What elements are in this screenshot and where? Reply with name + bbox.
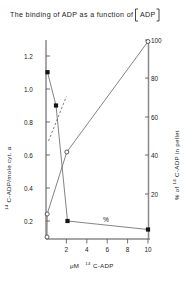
left-tick-label: 0.4 — [24, 185, 33, 192]
chart-figure: The binding of ADP as a function of ADP … — [0, 0, 186, 282]
x-tick-label: 4 — [85, 246, 89, 253]
right-tick-label: 60 — [151, 114, 159, 121]
title-lead-text: The binding of ADP as a function of — [10, 11, 133, 19]
x-tick-label: 2 — [65, 246, 69, 253]
data-point-open-circle — [65, 150, 69, 154]
right-tick-label: 20 — [151, 191, 159, 198]
percent-annotation: % — [103, 216, 109, 223]
data-point-filled-square — [45, 70, 49, 74]
svg-text:The binding of ADP as a functi: The binding of ADP as a function of — [10, 11, 133, 19]
title-bracket-text: ADP — [140, 11, 156, 19]
data-point-open-circle — [45, 235, 49, 239]
x-axis-label-unit: μM — [70, 262, 79, 269]
left-tick-label: 0.8 — [24, 119, 33, 126]
left-tick-label: 1.0 — [24, 86, 33, 93]
right-tick-label: 40 — [151, 152, 159, 159]
left-tick-label: 0.2 — [24, 218, 33, 225]
left-tick-label: 0.6 — [24, 152, 33, 159]
x-axis-label-rest: C-ADP — [93, 262, 114, 269]
x-tick-label: 8 — [126, 246, 130, 253]
data-point-open-circle — [45, 212, 49, 216]
right-tick-label: 80 — [151, 75, 159, 82]
left-tick-label: 1.2 — [24, 53, 33, 60]
data-point-filled-square — [54, 103, 58, 107]
left-axis-label-rest: C-ADP/mole cyt. a — [5, 146, 12, 202]
x-tick-label: 10 — [144, 246, 152, 253]
x-tick-label: 6 — [105, 246, 109, 253]
data-point-open-circle — [146, 40, 150, 44]
right-axis-label-lead: % of — [173, 184, 180, 200]
x-axis-label-superscript: 14 — [85, 261, 91, 266]
right-axis-label-superscript: 14 — [172, 179, 177, 185]
data-point-filled-square — [146, 227, 150, 231]
right-tick-label: 100 — [151, 37, 162, 44]
data-point-filled-square — [65, 219, 69, 223]
right-axis-label-rest: C-ADP in pellet — [173, 130, 180, 177]
title-bracket-group: ADP — [140, 11, 156, 19]
left-axis-label-superscript: 14 — [4, 204, 9, 210]
